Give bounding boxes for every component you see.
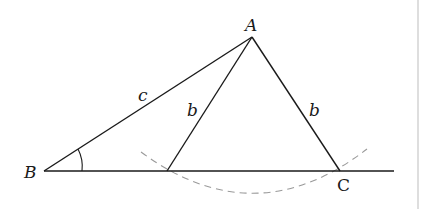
side-b-left [167,37,252,171]
vertex-label-a: A [243,15,257,35]
side-label-b-right: b [309,100,320,120]
angle-b-marker [78,149,82,171]
side-label-b-left: b [187,100,198,120]
triangle-diagram: A B C c b b [0,0,427,209]
side-b-right [252,37,340,171]
side-c [44,37,252,171]
side-label-c: c [138,85,148,105]
vertex-label-b: B [23,162,37,182]
vertex-label-c: C [337,175,350,195]
